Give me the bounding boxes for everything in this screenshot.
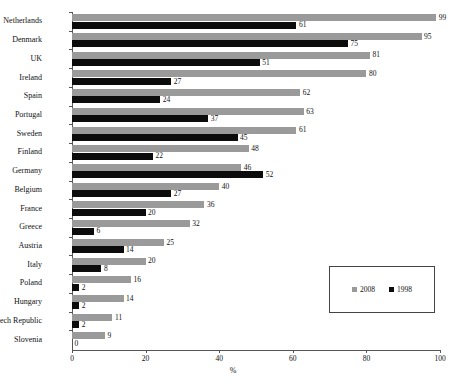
bar-1998 (72, 78, 171, 85)
bar-value-label: 46 (244, 164, 252, 172)
chart-row: Denmark9575 (72, 31, 440, 50)
bar-value-label: 48 (251, 145, 259, 153)
bar-2008 (72, 89, 300, 96)
x-axis-tick-label: 100 (434, 355, 445, 363)
x-axis-tick (219, 350, 220, 353)
bar-value-label: 52 (266, 171, 274, 179)
bar-value-label: 81 (373, 51, 381, 59)
category-label: Slovenia (14, 336, 42, 344)
category-label: Ireland (19, 74, 42, 82)
bar-value-label: 2 (82, 321, 86, 329)
y-axis-tick (69, 181, 72, 182)
bar-value-label: 51 (262, 59, 270, 67)
chart-row: Sweden6145 (72, 124, 440, 143)
category-label: Italy (27, 261, 42, 269)
chart-row: Spain6224 (72, 87, 440, 106)
chart-row: Finland4822 (72, 143, 440, 162)
y-axis-tick (69, 124, 72, 125)
bar-2008 (72, 220, 190, 227)
bar-1998 (72, 190, 171, 197)
category-label: Denmark (12, 36, 42, 44)
category-label: Germany (12, 167, 42, 175)
bar-value-label: 27 (174, 78, 182, 86)
bar-2008 (72, 183, 219, 190)
legend-item: 1998 (389, 285, 412, 294)
x-axis-tick-label: 80 (363, 355, 371, 363)
category-label: Belgium (14, 186, 42, 194)
bar-value-label: 95 (424, 33, 432, 41)
bar-value-label: 80 (369, 70, 377, 78)
bar-2008 (72, 127, 296, 134)
bar-1998 (72, 40, 348, 47)
bar-2008 (72, 239, 164, 246)
bar-value-label: 2 (82, 284, 86, 292)
y-axis-tick (69, 31, 72, 32)
x-axis-tick (293, 350, 294, 353)
bar-1998 (72, 246, 124, 253)
category-label: Finland (18, 148, 42, 156)
bar-1998 (72, 171, 263, 178)
x-axis-tick (72, 350, 73, 353)
legend-item: 2008 (352, 285, 375, 294)
y-axis-tick (69, 106, 72, 107)
bar-value-label: 99 (439, 14, 447, 22)
bar-2008 (72, 33, 422, 40)
x-axis-tick-label: 20 (142, 355, 150, 363)
chart-row: Austria2514 (72, 237, 440, 256)
chart-row: UK8151 (72, 49, 440, 68)
bar-value-label: 14 (126, 295, 134, 303)
chart-row: France3620 (72, 199, 440, 218)
bar-1998 (72, 134, 238, 141)
chart-row: Netherlands9961 (72, 12, 440, 31)
bar-value-label: 9 (108, 332, 112, 340)
bar-value-label: 25 (167, 239, 175, 247)
bar-value-label: 11 (115, 314, 122, 322)
bar-value-label: 32 (192, 220, 200, 228)
bar-value-label: 40 (222, 183, 230, 191)
bar-2008 (72, 108, 304, 115)
bar-value-label: 37 (211, 115, 219, 123)
chart-row: Belgium4027 (72, 181, 440, 200)
legend-label: 1998 (397, 285, 412, 294)
y-axis-tick (69, 162, 72, 163)
y-axis-tick (69, 312, 72, 313)
bar-2008 (72, 295, 124, 302)
bar-1998 (72, 321, 79, 328)
bar-value-label: 8 (104, 265, 108, 273)
y-axis-tick (69, 143, 72, 144)
chart-row: Greece326 (72, 218, 440, 237)
category-label: UK (30, 55, 42, 63)
y-axis-tick (69, 237, 72, 238)
x-axis-tick (440, 350, 441, 353)
bar-2008 (72, 70, 366, 77)
chart-row: Germany4652 (72, 162, 440, 181)
bar-value-label: 61 (299, 21, 307, 29)
bar-2008 (72, 258, 146, 265)
bar-2008 (72, 201, 204, 208)
bar-2008 (72, 14, 436, 21)
bar-value-label: 36 (207, 201, 215, 209)
bar-value-label: 27 (174, 190, 182, 198)
bar-1998 (72, 284, 79, 291)
legend-swatch-icon (389, 287, 394, 292)
legend: 20081998 (329, 266, 435, 313)
y-axis-tick (69, 255, 72, 256)
category-label: France (20, 205, 42, 213)
bar-1998 (72, 153, 153, 160)
bar-2008 (72, 276, 131, 283)
category-label: Spain (24, 92, 42, 100)
category-label: Sweden (17, 130, 42, 138)
bar-2008 (72, 164, 241, 171)
bar-value-label: 24 (163, 96, 171, 104)
chart-row: Portugal6337 (72, 106, 440, 125)
bar-value-label: 20 (148, 209, 156, 217)
category-label: Portugal (15, 111, 42, 119)
chart-row: Czech Republic112 (72, 312, 440, 331)
y-axis-tick (69, 68, 72, 69)
y-axis-tick (69, 199, 72, 200)
y-axis-tick (69, 274, 72, 275)
x-axis-tick (146, 350, 147, 353)
bar-1998 (72, 265, 101, 272)
y-axis-tick (69, 49, 72, 50)
category-label: Hungary (14, 298, 42, 306)
